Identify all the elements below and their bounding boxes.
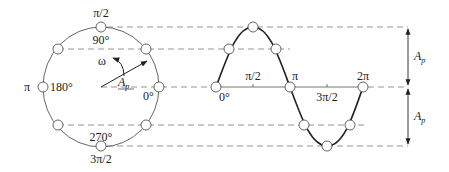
amplitude-lower-label: Ap bbox=[413, 109, 425, 125]
wave-node-360 bbox=[358, 82, 368, 92]
label-top-degree: 90° bbox=[93, 33, 110, 47]
amplitude-upper-label: Ap bbox=[413, 49, 425, 65]
wave-node-270 bbox=[322, 141, 332, 151]
wave-node-225 bbox=[299, 120, 309, 130]
label-right-degree: 0° bbox=[143, 89, 154, 103]
phasor-sine-diagram: π/2 90° π 180° 0° 270° 3π/2 ω Ap 0° π/2 … bbox=[0, 0, 449, 172]
wave-label-origin: 0° bbox=[219, 90, 230, 104]
label-top-radian: π/2 bbox=[93, 6, 108, 20]
node-0 bbox=[154, 82, 164, 92]
wave-label-two-pi: 2π bbox=[357, 69, 369, 83]
wave-node-90 bbox=[248, 22, 258, 32]
node-45 bbox=[141, 44, 151, 54]
wave-label-half-pi: π/2 bbox=[245, 69, 260, 83]
omega-rotation-arrow bbox=[113, 58, 124, 76]
wave-node-180 bbox=[285, 82, 295, 92]
wave-node-135 bbox=[271, 44, 281, 54]
label-left-radian: π bbox=[24, 80, 30, 94]
label-left-degree: 180° bbox=[50, 80, 73, 94]
wave-node-45 bbox=[224, 44, 234, 54]
node-180 bbox=[38, 82, 48, 92]
node-135 bbox=[53, 44, 63, 54]
label-omega: ω bbox=[98, 54, 106, 68]
node-315 bbox=[141, 120, 151, 130]
wave-label-pi: π bbox=[292, 69, 298, 83]
node-90 bbox=[96, 22, 106, 32]
phasor-circle: π/2 90° π 180° 0° 270° 3π/2 ω Ap bbox=[24, 6, 164, 166]
wave-label-three-half-pi: 3π/2 bbox=[316, 90, 337, 104]
amplitude-indicators: Ap Ap bbox=[408, 29, 425, 144]
label-bottom-radian: 3π/2 bbox=[90, 152, 111, 166]
label-bottom-degree: 270° bbox=[90, 130, 113, 144]
wave-node-315 bbox=[345, 120, 355, 130]
node-225 bbox=[53, 120, 63, 130]
sine-wave: 0° π/2 π 3π/2 2π bbox=[211, 22, 369, 151]
